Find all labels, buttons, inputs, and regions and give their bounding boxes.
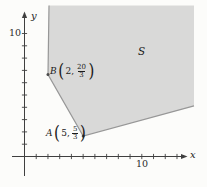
close-paren: ) — [80, 124, 86, 143]
y-axis-arrow-icon — [22, 12, 27, 19]
x-axis-arrow-icon — [181, 154, 188, 159]
x-axis-label: x — [190, 150, 196, 160]
point-b-ycoord-fraction: 20 3 — [76, 64, 87, 80]
y-tick-label-10: 10 — [6, 28, 21, 38]
point-a-xcoord: 5, — [61, 129, 70, 138]
fraction-numerator: 5 — [72, 126, 78, 133]
point-a-ycoord-fraction: 5 3 — [72, 126, 78, 142]
region-plot-canvas — [0, 0, 207, 187]
x-tick-label-10: 10 — [135, 159, 149, 169]
open-paren: ( — [58, 62, 64, 81]
point-b-xcoord: 2, — [65, 67, 74, 76]
close-paren: ) — [89, 62, 95, 81]
open-paren: ( — [54, 124, 60, 143]
point-b-name: B — [50, 67, 57, 76]
fraction-denominator: 3 — [72, 133, 78, 141]
coordinate-plane-figure: y x 10 10 S B(2, 20 3 ) A(5, 5 3 ) — [0, 0, 207, 187]
y-axis-label: y — [31, 11, 37, 21]
point-a-label: A(5, 5 3 ) — [46, 126, 86, 142]
fraction-numerator: 20 — [76, 64, 87, 71]
fraction-denominator: 3 — [78, 71, 84, 79]
region-s-label: S — [138, 46, 145, 57]
point-a-name: A — [46, 129, 53, 138]
point-b-label: B(2, 20 3 ) — [50, 64, 95, 80]
